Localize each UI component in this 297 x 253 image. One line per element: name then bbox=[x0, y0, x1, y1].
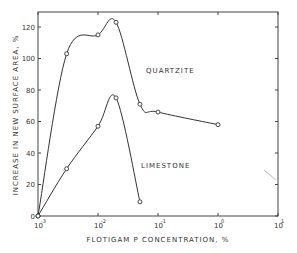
x-tick-exponent: -3 bbox=[41, 218, 46, 224]
x-tick-exponent: -1 bbox=[161, 218, 166, 224]
scan-artifact-mark bbox=[264, 170, 276, 180]
y-tick-labels: 020406080100120 bbox=[22, 24, 35, 221]
y-tick-label: 40 bbox=[26, 150, 35, 158]
x-axis-title: FLOTIGAM P CONCENTRATION, % bbox=[87, 236, 230, 244]
data-point bbox=[96, 124, 100, 128]
data-curves bbox=[38, 19, 218, 216]
data-point bbox=[138, 102, 142, 106]
y-tick-label: 20 bbox=[26, 181, 35, 189]
y-tick-label: 80 bbox=[26, 87, 35, 95]
series-label-limestone: LIMESTONE bbox=[141, 162, 190, 170]
y-tick-label: 0 bbox=[31, 213, 35, 221]
line-chart: 020406080100120 10-310-210-1100101 QUART… bbox=[0, 0, 297, 253]
data-point bbox=[216, 123, 220, 127]
data-point bbox=[114, 96, 118, 100]
data-point bbox=[138, 200, 142, 204]
y-tick-label: 120 bbox=[22, 24, 35, 32]
data-point bbox=[65, 167, 69, 171]
data-point bbox=[96, 33, 100, 37]
x-tick-exponent: 1 bbox=[281, 218, 284, 224]
x-tick-labels: 10-310-210-1100101 bbox=[34, 218, 284, 230]
data-point bbox=[114, 20, 118, 24]
data-point bbox=[65, 52, 69, 56]
curve-limestone bbox=[38, 95, 140, 216]
y-axis-title: INCREASE IN NEW SURFACE AREA, % bbox=[12, 35, 20, 196]
series-label-quartzite: QUARTZITE bbox=[146, 67, 195, 75]
y-tick-label: 60 bbox=[26, 118, 35, 126]
data-point bbox=[36, 214, 40, 218]
x-tick-exponent: -2 bbox=[101, 218, 106, 224]
curve-quartzite bbox=[38, 19, 218, 216]
data-point bbox=[156, 110, 160, 114]
y-tick-label: 100 bbox=[22, 55, 35, 63]
x-tick-exponent: 0 bbox=[221, 218, 224, 224]
